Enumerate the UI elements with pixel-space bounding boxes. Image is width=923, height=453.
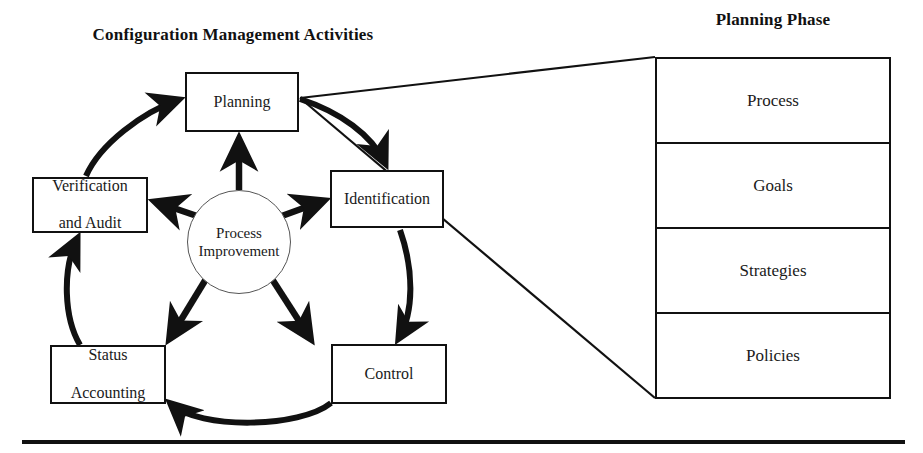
node-planning-label: Planning [211,93,274,112]
node-status-accounting-label: Status Accounting [65,346,152,403]
node-status-accounting-line2: Accounting [68,384,149,403]
node-control-label: Control [362,365,417,384]
node-identification-label: Identification [341,190,433,209]
radial-arrow-to-control [272,279,310,338]
arc-verification-to-planning [86,100,178,176]
center-node-line2: Improvement [199,243,280,259]
planning-phase-row-policies[interactable]: Policies [657,314,889,397]
node-verification-and-audit[interactable]: Verification and Audit [32,177,148,233]
planning-phase-row-goals-label: Goals [753,176,793,196]
arc-status-accounting-to-verification [67,239,80,345]
node-identification[interactable]: Identification [330,170,444,228]
footer-divider-rule [22,440,905,444]
center-node-label: Process Improvement [199,224,280,260]
radial-arrow-to-verification [156,202,197,216]
node-verification-line2: and Audit [49,214,131,233]
arc-identification-to-control [399,230,410,338]
node-status-accounting[interactable]: Status Accounting [50,345,166,404]
node-verification-and-audit-label: Verification and Audit [46,177,134,234]
diagram-canvas: Configuration Management Activities Plan… [0,0,923,453]
planning-phase-row-process[interactable]: Process [657,59,889,144]
radial-arrow-to-identification [279,201,323,217]
radial-arrow-to-status-accounting [170,279,206,338]
planning-phase-row-goals[interactable]: Goals [657,144,889,229]
node-planning[interactable]: Planning [185,72,299,132]
node-control[interactable]: Control [331,344,447,404]
planning-phase-table: Process Goals Strategies Policies [655,57,891,399]
node-status-accounting-line1: Status [68,346,149,365]
arc-control-to-status-accounting [171,403,331,423]
planning-phase-row-strategies[interactable]: Strategies [657,229,889,314]
center-node-process-improvement[interactable]: Process Improvement [187,190,291,294]
planning-phase-row-strategies-label: Strategies [739,261,806,281]
callout-line-top [300,57,655,98]
node-verification-line1: Verification [49,177,131,196]
center-node-line1: Process [216,225,262,241]
planning-phase-row-policies-label: Policies [746,346,800,366]
planning-phase-row-process-label: Process [747,91,799,111]
